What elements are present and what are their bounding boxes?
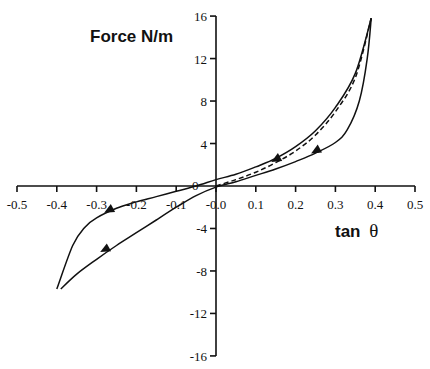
x-tick-label: 0.4 — [367, 197, 384, 212]
direction-arrow-icon — [271, 153, 282, 162]
x-axis-title-symbol: θ — [369, 220, 378, 241]
y-tick-label: -12 — [190, 306, 207, 321]
y-tick-label: -4 — [196, 221, 207, 236]
force-vs-tan-theta-chart: -0.5-0.4-0.3-0.2-0.1-0.00.10.20.30.40.5 … — [0, 0, 430, 369]
y-tick-label: -16 — [190, 349, 208, 364]
x-axis-title-text: tan — [335, 222, 361, 241]
x-tick-label: -0.1 — [166, 197, 187, 212]
x-tick-label: 0.1 — [248, 197, 264, 212]
x-tick-label: -0.5 — [7, 197, 28, 212]
y-tick-label: 12 — [194, 52, 207, 67]
x-tick-label: -0.3 — [86, 197, 107, 212]
x-tick-labels: -0.5-0.4-0.3-0.2-0.1-0.00.10.20.30.40.5 — [7, 197, 423, 212]
direction-arrow-icon — [100, 243, 111, 252]
y-tick-label: -8 — [196, 264, 207, 279]
origin-loop-marker: 0 — [192, 178, 199, 193]
x-tick-label: 0.3 — [327, 197, 343, 212]
x-axis-title: tan θ — [335, 220, 378, 241]
y-axis-title: Force N/m — [90, 27, 173, 46]
x-tick-label: -0.4 — [47, 197, 68, 212]
y-tick-label: 8 — [201, 94, 208, 109]
direction-arrow-icon — [311, 145, 322, 154]
x-tick-label: -0.0 — [206, 197, 227, 212]
x-tick-label: 0.5 — [407, 197, 423, 212]
x-tick-label: 0.2 — [287, 197, 303, 212]
y-tick-label: 4 — [201, 137, 208, 152]
y-tick-label: 16 — [194, 9, 208, 24]
series-dashed-reference — [216, 18, 371, 186]
